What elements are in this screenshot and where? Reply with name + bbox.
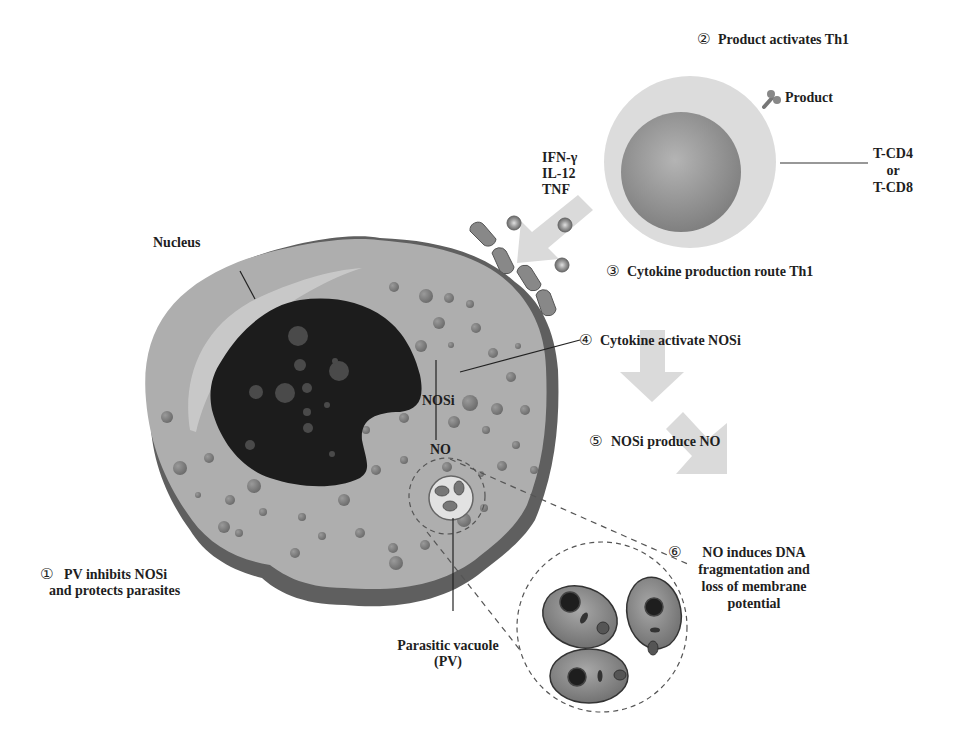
macrophage-cell xyxy=(145,222,580,611)
no-label: NO xyxy=(430,442,451,457)
nosi-label: NOSi xyxy=(422,393,455,408)
product-receptor-icon xyxy=(764,90,781,107)
svg-text:NOSi produce NO: NOSi produce NO xyxy=(611,434,721,449)
zoomed-parasites xyxy=(517,542,687,712)
step-4-label: ④ Cytokine activate NOSi xyxy=(579,331,741,349)
parasitic-vacuole xyxy=(429,476,473,520)
nucleus-label: Nucleus xyxy=(153,235,201,250)
svg-text:⑥: ⑥ xyxy=(668,543,681,561)
product-label: Product xyxy=(785,90,833,105)
svg-text:TNF: TNF xyxy=(542,182,570,197)
step-3-label: ③ Cytokine production route Th1 xyxy=(606,262,813,280)
cytokine-labels: IFN-γ IL-12 TNF xyxy=(542,150,578,197)
svg-text:or: or xyxy=(886,163,899,178)
svg-text:①: ① xyxy=(40,565,53,583)
step-2-label: ② Product activates Th1 xyxy=(697,30,849,48)
t-cell-nucleus xyxy=(621,112,741,232)
parasite-2 xyxy=(621,573,687,655)
svg-text:potential: potential xyxy=(728,596,781,611)
svg-text:Product activates Th1: Product activates Th1 xyxy=(718,32,849,47)
svg-text:IL-12: IL-12 xyxy=(542,166,575,181)
svg-text:PV inhibits NOSi: PV inhibits NOSi xyxy=(64,567,167,582)
svg-text:Cytokine production route Th1: Cytokine production route Th1 xyxy=(627,264,813,279)
parasite-1 xyxy=(534,576,626,658)
step-6-label: ⑥ NO induces DNA fragmentation and loss … xyxy=(668,543,810,611)
svg-text:NO induces DNA: NO induces DNA xyxy=(702,545,806,560)
step-1-label: ① PV inhibits NOSi and protects parasite… xyxy=(40,565,181,598)
svg-text:fragmentation and: fragmentation and xyxy=(698,562,810,577)
svg-text:③: ③ xyxy=(606,262,619,280)
svg-text:T-CD4: T-CD4 xyxy=(873,146,913,161)
svg-text:(PV): (PV) xyxy=(434,654,462,670)
svg-text:Cytokine activate NOSi: Cytokine activate NOSi xyxy=(600,333,741,348)
macrophage-no-mechanism-diagram: ② Product activates Th1 Product T-CD4 or… xyxy=(0,0,957,731)
svg-text:IFN-γ: IFN-γ xyxy=(542,150,578,165)
svg-text:Parasitic vacuole: Parasitic vacuole xyxy=(397,638,498,653)
svg-text:T-CD8: T-CD8 xyxy=(873,180,913,195)
t-cell-type-label: T-CD4 or T-CD8 xyxy=(873,146,913,195)
step-5-label: ⑤ NOSi produce NO xyxy=(589,432,721,450)
svg-text:and protects parasites: and protects parasites xyxy=(49,583,181,598)
parasitic-vacuole-label: Parasitic vacuole (PV) xyxy=(397,638,498,670)
arrow-tcell-to-macrophage xyxy=(517,195,593,263)
svg-text:loss of membrane: loss of membrane xyxy=(702,579,807,594)
svg-text:④: ④ xyxy=(579,331,592,349)
svg-text:⑤: ⑤ xyxy=(589,432,602,450)
svg-text:②: ② xyxy=(697,30,710,48)
parasite-3 xyxy=(550,649,628,703)
